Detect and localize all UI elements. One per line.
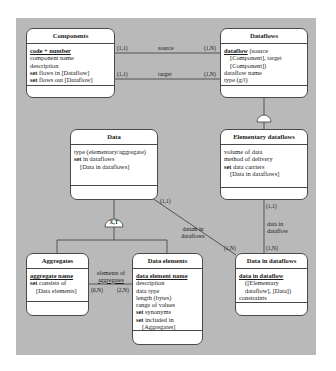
operations-section bbox=[133, 330, 202, 344]
attribute: [Component], target bbox=[224, 54, 304, 61]
entity-dataflows[interactable]: Dataflows dataflow (source [Component], … bbox=[220, 28, 308, 98]
attribute: set in dataflows bbox=[74, 155, 154, 162]
attribute-list: aggregate name set consists of [Data ele… bbox=[27, 269, 88, 296]
cardinality-label: (1,1) bbox=[160, 198, 171, 204]
attribute-key: aggregate name bbox=[30, 272, 85, 279]
relationship-label-data-in-dataflow: data in dataflow bbox=[267, 221, 288, 234]
attribute-list: type (elementary/aggregate) set in dataf… bbox=[71, 145, 157, 172]
cardinality-label: (0,N) bbox=[91, 287, 103, 293]
attribute-key: code + number bbox=[30, 47, 111, 54]
entity-data-in-dataflows[interactable]: Data in dataflows data in dataflow ([Ele… bbox=[235, 253, 308, 316]
attribute: [Data elements] bbox=[30, 287, 85, 294]
entity-title: Data elements bbox=[133, 254, 202, 269]
attribute-key: data element name bbox=[136, 272, 199, 279]
attribute: length (bytes) bbox=[136, 294, 199, 301]
attribute: set consists of bbox=[30, 279, 85, 286]
cardinality-label: (1,N) bbox=[204, 45, 216, 51]
attribute: description bbox=[30, 62, 111, 69]
attribute-key: dataflow (source bbox=[224, 47, 304, 54]
attribute: set flows out [Dataflow] bbox=[30, 76, 111, 83]
attribute: dataflow], [Data]) bbox=[239, 287, 304, 294]
entity-elementary-dataflows[interactable]: Elementary dataflows volume of data meth… bbox=[220, 129, 308, 200]
entity-title: Dataflows bbox=[221, 29, 307, 44]
attribute: data type bbox=[136, 287, 199, 294]
cardinality-label: (1,N) bbox=[266, 245, 278, 251]
operations-section bbox=[27, 301, 88, 315]
attribute: [Data in dataflows] bbox=[74, 163, 154, 170]
generalization-symbol-dataflows bbox=[257, 115, 271, 122]
entity-title: Components bbox=[27, 29, 114, 44]
operations-section bbox=[221, 85, 307, 97]
attribute: constraints bbox=[239, 294, 304, 301]
attribute-list: volume of data method of delivery set da… bbox=[221, 145, 307, 179]
operations-section bbox=[221, 187, 307, 199]
attribute: set data carriers bbox=[224, 163, 304, 170]
attribute: [Data in dataflows] bbox=[224, 170, 304, 177]
attribute-list: data element name description data type … bbox=[133, 269, 202, 332]
entity-data-elements[interactable]: Data elements data element name descript… bbox=[132, 253, 203, 345]
operations-section bbox=[27, 85, 114, 97]
entity-aggregates[interactable]: Aggregates aggregate name set consists o… bbox=[26, 253, 89, 316]
attribute: dataflow name bbox=[224, 69, 304, 76]
attribute: description bbox=[136, 279, 199, 286]
operations-section bbox=[236, 302, 307, 315]
attribute-list: data in dataflow ([Elementary dataflow],… bbox=[236, 269, 307, 303]
cardinality-label: (1,N) bbox=[204, 71, 216, 77]
attribute: volume of data bbox=[224, 148, 304, 155]
attribute: type (g/l) bbox=[224, 76, 304, 83]
attribute: component name bbox=[30, 54, 111, 61]
entity-title: Data in dataflows bbox=[236, 254, 307, 269]
attribute: [Component]) bbox=[224, 62, 304, 69]
attribute-list: dataflow (source [Component], target [Co… bbox=[221, 44, 307, 85]
relationship-label-datum-in-dataflows: datum in dataflows bbox=[178, 226, 208, 239]
operations-section bbox=[71, 185, 157, 199]
entity-data[interactable]: Data type (elementary/aggregate) set in … bbox=[70, 129, 158, 200]
attribute: type (elementary/aggregate) bbox=[74, 148, 154, 155]
attribute: set synonyms bbox=[136, 308, 199, 315]
cardinality-label: (1,1) bbox=[117, 45, 128, 51]
entity-title: Aggregates bbox=[27, 254, 88, 269]
entity-title: Elementary dataflows bbox=[221, 130, 307, 145]
entity-title: Data bbox=[71, 130, 157, 145]
attribute: set included in bbox=[136, 316, 199, 323]
attribute: method of delivery bbox=[224, 155, 304, 162]
relationship-label-target: target bbox=[158, 71, 172, 78]
cardinality-label: (1,1) bbox=[266, 203, 277, 209]
cardinality-label: (2,N) bbox=[117, 287, 129, 293]
attribute-list: code + number component name description… bbox=[27, 44, 114, 85]
relationship-label-elements-of-aggregates: elements of aggregates bbox=[90, 270, 132, 283]
generalization-label-data: X,T bbox=[104, 219, 124, 226]
cardinality-label: (1,N) bbox=[224, 245, 236, 251]
attribute: set flows in [Dataflow] bbox=[30, 69, 111, 76]
attribute-key: data in dataflow bbox=[239, 272, 304, 279]
attribute: range of values bbox=[136, 301, 199, 308]
cardinality-label: (1,1) bbox=[117, 71, 128, 77]
relationship-label-source: source bbox=[158, 45, 174, 52]
attribute: ([Elementary bbox=[239, 279, 304, 286]
entity-components[interactable]: Components code + number component name … bbox=[26, 28, 115, 98]
